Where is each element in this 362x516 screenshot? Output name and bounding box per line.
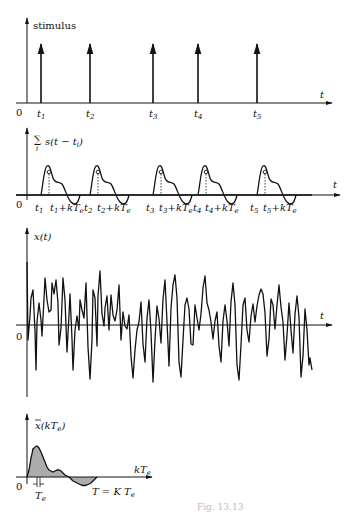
- svg-text:t3: t3: [146, 202, 155, 215]
- svg-text:x(kTe): x(kTe): [35, 420, 65, 433]
- y-axis-label: ∑ i s(t − ti): [34, 134, 83, 153]
- origin-label: 0: [16, 199, 22, 210]
- svg-text:t3: t3: [149, 108, 158, 121]
- svg-text:i: i: [36, 145, 38, 153]
- x-axis-label: t: [320, 310, 325, 321]
- y-axis-label: x(t): [34, 231, 52, 242]
- x-axis-label: t: [320, 89, 325, 100]
- te-label: Te: [35, 490, 46, 503]
- average-response-panel: x(kTe) kTe 0: [16, 414, 152, 503]
- svg-text:t4: t4: [194, 108, 203, 121]
- svg-text:s(t − ti): s(t − ti): [45, 136, 83, 149]
- figure-canvas: stimulus t 0 t1 t2 t3 t4 t5 ∑ i s(t − ti…: [0, 0, 362, 516]
- window-length-label: T = K Te: [92, 486, 135, 499]
- origin-label: 0: [16, 331, 22, 342]
- origin-label: 0: [16, 481, 22, 492]
- x-axis-label: kTe: [134, 464, 151, 477]
- svg-text:t1: t1: [35, 202, 44, 215]
- y-axis-label: x(kTe): [35, 420, 65, 433]
- svg-text:t2: t2: [86, 108, 95, 121]
- svg-text:t5: t5: [253, 108, 262, 121]
- impulse-arrows: [41, 44, 257, 103]
- averaged-samples: [27, 446, 97, 486]
- svg-text:t3+kTe: t3+kTe: [159, 202, 193, 215]
- stimulus-panel: stimulus t 0 t1 t2 t3 t4 t5: [16, 18, 332, 121]
- svg-text:∑: ∑: [34, 134, 42, 145]
- noise-trace: [27, 262, 312, 382]
- figure-caption: Fig. 13.13: [197, 502, 244, 512]
- summed-response-panel: ∑ i s(t − ti) t 0: [16, 128, 340, 215]
- origin-label: 0: [16, 107, 22, 118]
- svg-text:t1: t1: [37, 108, 46, 121]
- y-axis-label: stimulus: [33, 20, 76, 31]
- svg-text:t1+kTe: t1+kTe: [50, 202, 84, 215]
- x-axis-label: t: [333, 179, 338, 190]
- tick-labels: t1 t1+kTe t2 t2+kTe t3 t3+kTe t4 t4+kTe …: [35, 202, 297, 215]
- svg-text:t4+kTe: t4+kTe: [205, 202, 239, 215]
- svg-text:t5: t5: [250, 202, 259, 215]
- response-waveforms: [16, 166, 312, 204]
- te-interval-marker: [33, 477, 44, 487]
- svg-text:t2+kTe: t2+kTe: [97, 202, 131, 215]
- svg-text:t4: t4: [193, 202, 202, 215]
- tick-labels: t1 t2 t3 t4 t5: [37, 108, 262, 121]
- noisy-signal-panel: x(t) t 0: [16, 228, 332, 397]
- svg-text:t5+kTe: t5+kTe: [263, 202, 297, 215]
- svg-text:t2: t2: [84, 202, 93, 215]
